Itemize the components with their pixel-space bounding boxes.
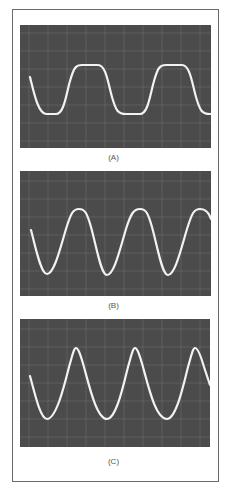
- waveform-a-graphic: [20, 25, 211, 148]
- grid-lines: [20, 171, 211, 296]
- caption-a: (A): [0, 153, 227, 163]
- caption-b: (B): [0, 301, 227, 311]
- trace-a: [30, 65, 211, 114]
- grid-lines: [20, 319, 210, 447]
- caption-c: (C): [0, 457, 227, 467]
- oscilloscope-panel-c: [20, 319, 210, 447]
- trace-c: [30, 348, 210, 419]
- grid-lines: [20, 25, 211, 148]
- oscilloscope-panel-b: [20, 171, 211, 296]
- waveform-c-graphic: [20, 319, 210, 447]
- trace-b: [31, 209, 211, 275]
- waveform-b-graphic: [20, 171, 211, 296]
- oscilloscope-panel-a: [20, 25, 211, 148]
